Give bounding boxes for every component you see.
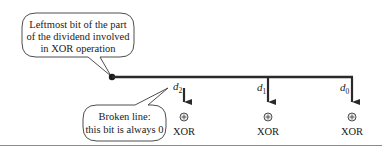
branch-d1: d1 XOR xyxy=(257,77,279,137)
branch-d1-label: d1 xyxy=(257,81,267,96)
branch-d2: d2 XOR xyxy=(173,80,195,137)
xor-label-d2: XOR xyxy=(173,126,195,137)
bottom-callout: Broken line: this bit is always 0 xyxy=(83,88,168,141)
branch-d0: d0 XOR xyxy=(340,77,363,137)
top-callout: Leftmost bit of the part of the dividend… xyxy=(22,13,134,76)
top-callout-line-1: Leftmost bit of the part xyxy=(29,19,126,30)
xor-label-d1: XOR xyxy=(257,126,279,137)
top-callout-line-2: of the dividend involved xyxy=(27,31,131,42)
branch-d0-label: d0 xyxy=(340,81,350,96)
xor-bit-diagram: Leftmost bit of the part of the dividend… xyxy=(0,0,382,147)
top-callout-line-3: in XOR operation xyxy=(40,43,116,54)
bottom-callout-line-2: this bit is always 0 xyxy=(85,124,163,135)
bottom-callout-line-1: Broken line: xyxy=(98,111,150,122)
xor-label-d0: XOR xyxy=(341,126,363,137)
branch-d2-label: d2 xyxy=(173,80,183,95)
